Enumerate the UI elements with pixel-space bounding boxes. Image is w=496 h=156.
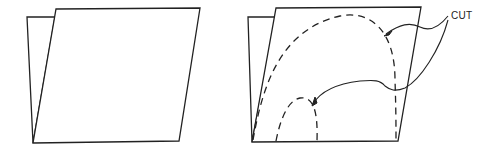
- diagram-canvas: CUT: [0, 0, 496, 156]
- right-folded-sheet: CUT: [248, 7, 472, 142]
- left-front-sheet: [33, 8, 200, 143]
- cut-label: CUT: [451, 10, 472, 21]
- left-folded-sheet: [27, 8, 200, 143]
